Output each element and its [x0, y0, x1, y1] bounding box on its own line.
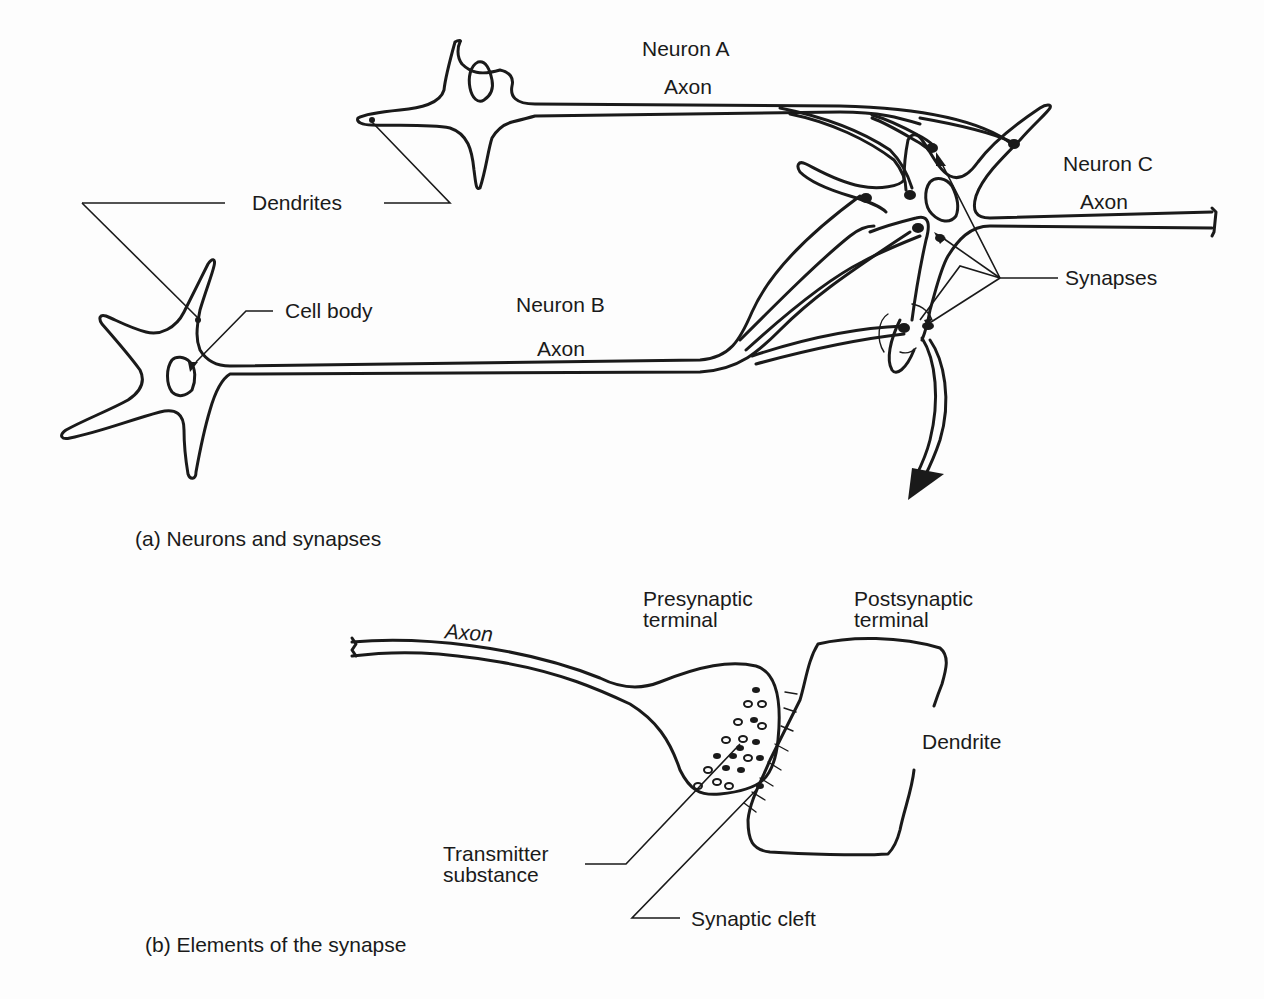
label-synaptic-cleft: Synaptic cleft [691, 908, 816, 930]
neuron-b-cell-body [62, 196, 910, 478]
synapse-highlight [879, 304, 946, 500]
output-arrow-head [908, 468, 944, 500]
caption-panel-a: (a) Neurons and synapses [135, 528, 381, 550]
label-synapses: Synapses [1065, 267, 1157, 289]
label-axon-detail: Axon [444, 620, 493, 645]
neuron-a-nucleus [469, 62, 492, 102]
postsynaptic-terminal-shape [748, 638, 946, 854]
label-dendrites: Dendrites [252, 192, 342, 214]
synapse-detail [352, 638, 946, 918]
neuron-a [358, 41, 1020, 201]
label-postsynaptic-terminal: Postsynaptic terminal [854, 588, 973, 630]
transmitter-vesicles [694, 687, 766, 789]
neuron-a-axon-branch-1 [780, 108, 912, 188]
label-neuron-a-axon: Axon [664, 76, 712, 98]
leader-lines [82, 122, 1058, 372]
neuron-a-cell-body [358, 41, 1012, 189]
neuron-b [62, 193, 945, 478]
label-cell-body: Cell body [285, 300, 373, 322]
label-dendrite: Dendrite [922, 731, 1001, 753]
label-neuron-c: Neuron C [1063, 153, 1153, 175]
label-presynaptic-terminal: Presynaptic terminal [643, 588, 753, 630]
label-transmitter-substance: Transmitter substance [443, 843, 548, 885]
label-neuron-c-axon: Axon [1080, 191, 1128, 213]
label-neuron-b: Neuron B [516, 294, 605, 316]
neuron-diagram [0, 0, 1264, 999]
caption-panel-b: (b) Elements of the synapse [145, 934, 406, 956]
label-neuron-a: Neuron A [642, 38, 730, 60]
label-neuron-b-axon: Axon [537, 338, 585, 360]
